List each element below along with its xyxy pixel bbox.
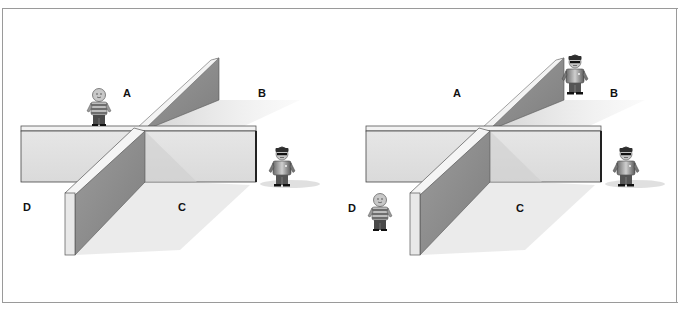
right-panel-walls (366, 58, 665, 255)
left-label-c: C (178, 201, 186, 213)
right-label-b: B (610, 87, 618, 99)
figure-illustration (0, 0, 680, 309)
right-label-a: A (453, 87, 461, 99)
left-boy-figure-a (87, 89, 111, 127)
left-label-a: A (123, 87, 131, 99)
left-label-b: B (258, 87, 266, 99)
left-label-d: D (23, 201, 31, 213)
right-boy-figure-d (368, 194, 392, 232)
right-policeman-figure-b (562, 55, 588, 95)
right-label-c: C (516, 202, 524, 214)
left-panel-walls (21, 58, 320, 255)
right-label-d: D (348, 202, 356, 214)
